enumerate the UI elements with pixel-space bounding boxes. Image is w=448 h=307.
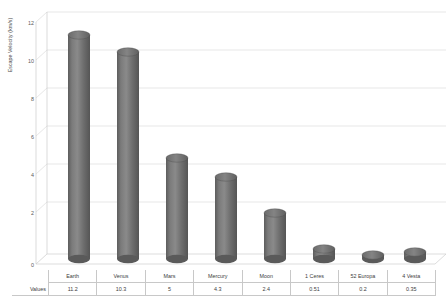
bar-venus [117, 48, 139, 263]
bar-moon [264, 209, 286, 263]
gridlines [36, 12, 446, 212]
table-value-mars: 5 [145, 283, 193, 296]
values-row-label: Values [12, 283, 49, 296]
table-header-mars: Mars [145, 270, 193, 283]
table-header-52-europa: 52 Europa [339, 270, 387, 283]
table-header-1-ceres: 1 Ceres [290, 270, 338, 283]
axis-walls [36, 12, 47, 264]
table-value-52-europa: 0.2 [339, 283, 387, 296]
escape-velocity-chart: Escape Velocity (km/s) 12 10 8 6 4 2 0 [0, 0, 448, 307]
table-header-mercury: Mercury [194, 270, 242, 283]
table-value-earth: 11.2 [49, 283, 97, 296]
bar-earth [68, 31, 90, 263]
plot-area [0, 0, 448, 307]
bar-52-europa [362, 251, 384, 263]
category-row-label [12, 270, 49, 283]
table-header-4-vesta: 4 Vesta [387, 270, 435, 283]
table-row-values: Values 11.2 10.3 5 4.3 2.4 0.51 0.2 0.35 [12, 283, 436, 296]
table-header-venus: Venus [97, 270, 145, 283]
bar-1-ceres [313, 245, 335, 263]
bar-mercury [215, 173, 237, 263]
table-header-earth: Earth [49, 270, 97, 283]
data-table: Earth Venus Mars Mercury Moon 1 Ceres 52… [12, 270, 436, 296]
table-header-moon: Moon [242, 270, 290, 283]
table-value-venus: 10.3 [97, 283, 145, 296]
table-row-categories: Earth Venus Mars Mercury Moon 1 Ceres 52… [12, 270, 436, 283]
table-value-mercury: 4.3 [194, 283, 242, 296]
bar-4-vesta [404, 248, 426, 263]
table-value-4-vesta: 0.35 [387, 283, 435, 296]
floor-plane [36, 254, 446, 264]
table-value-1-ceres: 0.51 [290, 283, 338, 296]
bar-mars [166, 154, 188, 263]
table-value-moon: 2.4 [242, 283, 290, 296]
